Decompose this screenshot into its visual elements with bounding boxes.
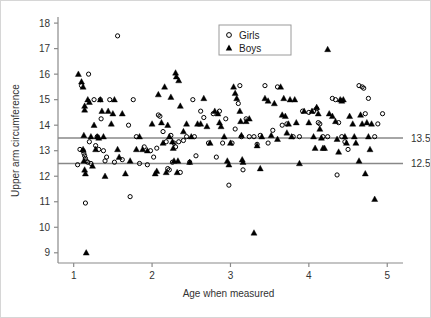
scatter-plot-svg: 910111213141516171812345 13.512.5 Age wh…	[1, 1, 431, 318]
y-axis-tick-label: 13	[39, 145, 51, 156]
data-point-girls	[233, 127, 237, 131]
data-point-boys	[234, 95, 240, 101]
data-point-girls	[238, 84, 242, 88]
data-point-girls	[380, 112, 384, 116]
data-point-boys	[168, 94, 174, 100]
legend-label: Boys	[239, 43, 261, 54]
x-axis-tick-label: 5	[384, 270, 390, 281]
data-point-girls	[335, 173, 339, 177]
data-point-boys	[281, 95, 287, 101]
y-axis-tick-label: 16	[39, 69, 51, 80]
y-axis-tick-label: 12	[39, 171, 51, 182]
y-axis-tick-label: 10	[39, 222, 51, 233]
data-point-girls	[366, 96, 370, 100]
upper-reference-line-label: 13.5	[411, 133, 431, 144]
data-point-girls	[115, 34, 119, 38]
data-point-boys	[133, 146, 139, 152]
data-point-boys	[237, 108, 243, 114]
data-point-boys	[162, 84, 168, 90]
data-point-boys	[119, 111, 125, 117]
y-axis-title: Upper arm circumference	[10, 84, 21, 197]
data-point-girls	[181, 138, 185, 142]
data-point-girls	[103, 159, 107, 163]
data-point-girls	[376, 122, 380, 126]
data-point-boys	[204, 123, 210, 129]
data-point-boys	[325, 46, 331, 52]
x-axis-tick-label: 1	[71, 270, 77, 281]
x-axis-tick-label: 4	[306, 270, 312, 281]
data-point-girls	[99, 117, 103, 121]
data-point-girls	[87, 140, 91, 144]
data-point-girls	[126, 123, 130, 127]
data-point-boys	[369, 121, 375, 127]
data-point-girls	[227, 183, 231, 187]
data-point-boys	[81, 132, 87, 138]
data-point-girls	[224, 117, 228, 121]
data-point-boys	[115, 146, 121, 152]
data-point-girls	[202, 115, 206, 119]
data-point-girls	[280, 123, 284, 127]
data-point-girls	[199, 109, 203, 113]
data-point-boys	[80, 84, 86, 90]
data-point-girls	[86, 72, 90, 76]
x-axis-tick-label: 2	[149, 270, 155, 281]
y-axis-tick-label: 15	[39, 94, 51, 105]
data-point-boys	[173, 70, 179, 76]
data-point-boys	[306, 119, 312, 125]
data-point-boys	[367, 146, 373, 152]
data-point-girls	[263, 84, 267, 88]
y-axis-tick-label: 11	[40, 196, 51, 207]
data-point-girls	[83, 201, 87, 205]
y-axis-tick-label: 17	[39, 43, 51, 54]
data-point-boys	[293, 119, 299, 125]
data-point-boys	[184, 121, 190, 127]
lower-reference-line-label: 12.5	[411, 158, 431, 169]
data-point-girls	[221, 141, 225, 145]
data-point-boys	[75, 71, 81, 77]
data-point-boys	[238, 118, 244, 124]
data-point-boys	[314, 104, 320, 110]
data-point-boys	[353, 140, 359, 146]
data-point-boys	[284, 130, 290, 136]
data-point-girls	[346, 147, 350, 151]
data-point-boys	[88, 133, 94, 139]
data-point-boys	[170, 145, 176, 151]
data-point-boys	[166, 133, 172, 139]
data-point-boys	[155, 91, 161, 97]
data-point-girls	[108, 98, 112, 102]
data-point-girls	[155, 146, 159, 150]
legend-label: Girls	[239, 30, 260, 41]
data-point-boys	[232, 90, 238, 96]
x-axis-tick-label: 3	[228, 270, 234, 281]
data-point-girls	[236, 101, 240, 105]
data-point-boys	[100, 133, 106, 139]
data-point-boys	[83, 250, 89, 256]
x-axis-title: Age when measured	[183, 288, 275, 299]
data-point-boys	[365, 133, 371, 139]
data-point-boys	[362, 170, 368, 176]
data-point-girls	[266, 141, 270, 145]
data-point-girls	[363, 112, 367, 116]
data-point-boys	[350, 121, 356, 127]
data-point-boys	[358, 112, 364, 118]
data-point-boys	[111, 96, 117, 102]
data-point-boys	[78, 79, 84, 85]
series-girls	[75, 34, 384, 205]
data-point-boys	[351, 133, 357, 139]
data-point-boys	[160, 140, 166, 146]
data-point-boys	[154, 168, 160, 174]
data-point-girls	[191, 98, 195, 102]
data-point-boys	[271, 100, 277, 106]
data-point-boys	[238, 132, 244, 138]
data-point-boys	[231, 84, 237, 90]
data-point-boys	[364, 119, 370, 125]
y-axis-tick-label: 18	[39, 18, 51, 29]
data-point-boys	[251, 230, 257, 236]
data-points-layer	[75, 34, 384, 255]
data-point-boys	[102, 173, 108, 179]
data-point-boys	[122, 170, 128, 176]
data-point-girls	[128, 195, 132, 199]
data-point-boys	[292, 96, 298, 102]
data-point-boys	[372, 196, 378, 202]
data-point-boys	[257, 165, 263, 171]
